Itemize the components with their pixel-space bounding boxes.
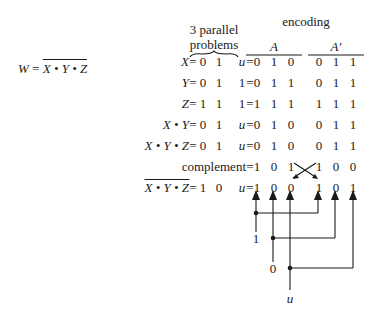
brace-icon	[190, 51, 238, 57]
junction-dot	[288, 266, 293, 271]
arrow-up-icon	[349, 190, 357, 200]
junction-dot	[254, 211, 259, 216]
arrow-up-icon	[252, 190, 260, 200]
arrow-up-icon	[269, 190, 277, 200]
junction-dot	[271, 236, 276, 241]
input-label-1: 1	[253, 232, 260, 245]
input-label-0: 0	[270, 262, 277, 275]
arrow-up-icon	[331, 190, 339, 200]
arrow-up-icon	[314, 190, 322, 200]
input-label-u: u	[287, 292, 294, 305]
wiring-diagram	[0, 0, 374, 312]
arrow-up-icon	[286, 190, 294, 200]
